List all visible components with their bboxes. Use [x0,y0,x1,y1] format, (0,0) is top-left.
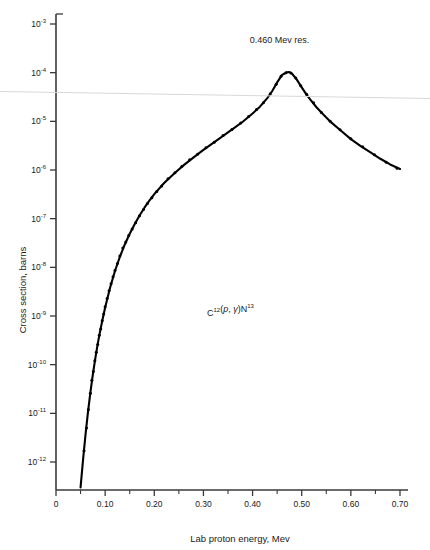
data-point [138,214,141,217]
data-point [142,208,145,211]
data-point [294,76,297,79]
y-tick-label: 10-7 [31,213,46,224]
x-tick-label: 0.40 [244,499,261,509]
x-tick-label: 0.70 [392,499,409,509]
data-point [204,146,207,149]
data-point [262,101,265,104]
data-point [146,202,149,205]
data-point [213,141,216,144]
x-tick-label: 0.20 [146,499,163,509]
x-tick-label: 0 [54,499,59,509]
data-point [87,408,90,411]
y-tick-label: 10-8 [31,261,46,272]
data-point [96,343,99,346]
data-point [173,171,176,174]
data-point [110,282,113,285]
data-point [373,153,376,156]
data-point [95,351,98,354]
data-point [385,161,388,164]
y-tick-label: 10-9 [31,310,46,321]
data-point [118,255,121,258]
data-point [90,379,93,382]
data-point [116,262,119,265]
y-axis-title: Cross section, barns [17,246,28,333]
data-point [289,71,292,74]
data-point [255,108,258,111]
x-axis: 00.100.200.300.400.500.600.70 [54,490,409,509]
data-point [349,137,352,140]
data-point [106,297,109,300]
data-point [83,449,86,452]
data-point [222,134,225,137]
data-point [196,153,199,156]
data-point-group [83,71,399,452]
data-point [99,328,102,331]
cross-section-curve [81,72,400,487]
data-layer [81,71,400,487]
data-point [284,71,287,74]
data-point [108,289,111,292]
data-point [113,269,116,272]
y-axis: 10-310-410-510-610-710-810-910-1010-1110… [28,14,63,490]
data-point [104,305,107,308]
data-point [305,93,308,96]
data-point [230,128,233,131]
x-tick-label: 0.50 [293,499,310,509]
data-point [339,128,342,131]
data-point [121,246,124,249]
data-point [160,184,163,187]
y-tick-label: 10-3 [31,18,46,29]
y-tick-label: 10-11 [28,407,46,418]
y-tick-label: 10-4 [31,67,46,78]
data-point [180,165,183,168]
data-point [239,122,242,125]
data-point [312,101,315,104]
data-point [188,158,191,161]
reaction-label: C12(p, γ)N13 [207,303,255,318]
data-point [98,334,101,337]
data-point [299,84,302,87]
x-tick-label: 0.60 [343,499,360,509]
data-point [85,426,88,429]
data-point [127,234,130,237]
y-tick-label: 10-12 [28,456,47,467]
y-tick-label: 10-10 [28,359,47,370]
data-point [101,319,104,322]
data-point [329,120,332,123]
data-point [89,392,92,395]
x-tick-label: 0.10 [97,499,114,509]
x-tick-label: 0.30 [195,499,212,509]
data-point [247,115,250,118]
data-point [124,241,127,244]
cross-section-plot: 10-310-410-510-610-710-810-910-1010-1110… [0,0,430,550]
data-point [320,111,323,114]
data-point [93,359,96,362]
data-point [361,145,364,148]
data-point [134,221,137,224]
data-point [396,167,399,170]
data-point [92,370,95,373]
data-point [131,228,134,231]
data-point [112,275,115,278]
figure-container: 10-310-410-510-610-710-810-910-1010-1110… [0,0,430,550]
resonance-label: 0.460 Mev res. [250,35,310,45]
y-tick-label: 10-6 [31,164,46,175]
data-point [150,196,153,199]
data-point [269,92,272,95]
data-point [167,177,170,180]
data-point [102,312,105,315]
x-axis-title: Lab proton energy, Mev [190,533,290,544]
data-point [155,190,158,193]
data-point [275,83,278,86]
data-point [280,75,283,78]
y-tick-label: 10-5 [31,115,46,126]
